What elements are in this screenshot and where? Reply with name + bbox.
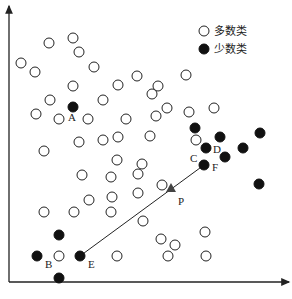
point-label-c: C: [190, 152, 197, 164]
legend-minority-icon: [199, 44, 209, 54]
majority-point: [132, 71, 142, 81]
minority-point: [254, 179, 264, 189]
majority-point: [181, 70, 191, 80]
majority-point: [39, 207, 49, 217]
majority-point: [121, 114, 131, 124]
majority-point: [89, 62, 99, 72]
minority-point: [220, 152, 230, 162]
point-label-d: D: [213, 143, 221, 155]
majority-point: [191, 135, 201, 145]
majority-point: [68, 81, 78, 91]
majority-point: [30, 67, 40, 77]
majority-point: [157, 180, 167, 190]
minority-point: [190, 123, 200, 133]
majority-point: [147, 89, 157, 99]
majority-point: [113, 80, 123, 90]
majority-point: [54, 251, 64, 261]
majority-point: [106, 172, 116, 182]
smote-diagram: ABEDFCP 多数类 少数类: [0, 0, 292, 299]
e-to-f-line: [80, 165, 204, 256]
majority-point: [107, 192, 117, 202]
minority-point-f: [199, 160, 209, 170]
majority-point: [83, 114, 93, 124]
majority-point: [151, 111, 161, 121]
majority-point: [209, 103, 219, 113]
majority-point: [98, 135, 108, 145]
majority-point: [184, 107, 194, 117]
majority-point: [68, 33, 78, 43]
majority-point: [69, 207, 79, 217]
synthetic-point: [166, 183, 176, 192]
point-label-f: F: [212, 161, 218, 173]
interpolation-line: [80, 165, 204, 256]
majority-point: [77, 170, 87, 180]
majority-point: [31, 109, 41, 119]
minority-points: [32, 102, 265, 283]
majority-point: [200, 227, 210, 237]
minority-point-b: [32, 251, 42, 261]
point-label-e: E: [88, 258, 95, 270]
point-label-p: P: [178, 195, 184, 207]
point-label-b: B: [45, 258, 52, 270]
minority-point-e: [75, 251, 85, 261]
majority-point: [163, 251, 173, 261]
majority-point: [156, 234, 166, 244]
minority-point: [54, 273, 64, 283]
majority-point: [44, 38, 54, 48]
majority-point: [112, 251, 122, 261]
majority-point: [54, 114, 64, 124]
minority-point: [54, 230, 64, 240]
point-label-a: A: [68, 111, 76, 123]
majority-point: [74, 47, 84, 57]
majority-point: [162, 103, 172, 113]
legend-minority-label: 少数类: [214, 42, 247, 56]
majority-point: [74, 137, 84, 147]
majority-point: [84, 195, 94, 205]
majority-point: [137, 159, 147, 169]
majority-point: [16, 58, 26, 68]
legend-majority-label: 多数类: [214, 24, 247, 38]
minority-point: [215, 132, 225, 142]
majority-point: [98, 95, 108, 105]
majority-point: [201, 251, 211, 261]
majority-point: [39, 146, 49, 156]
legend-majority-icon: [199, 26, 209, 36]
majority-point: [106, 207, 116, 217]
majority-point: [133, 169, 143, 179]
legend: 多数类 少数类: [199, 24, 247, 56]
minority-point: [238, 143, 248, 153]
majority-point: [113, 132, 123, 142]
majority-point: [145, 131, 155, 141]
majority-point: [45, 95, 55, 105]
synthetic-point-triangle-icon: [166, 183, 176, 192]
majority-point: [112, 155, 122, 165]
majority-points: [16, 33, 219, 261]
majority-point: [133, 188, 143, 198]
majority-point: [170, 240, 180, 250]
majority-point: [138, 216, 148, 226]
minority-point: [255, 128, 265, 138]
minority-point-d: [201, 143, 211, 153]
